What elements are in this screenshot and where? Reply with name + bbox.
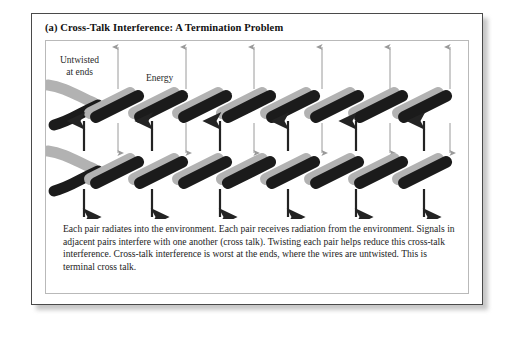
wire-pair-lower <box>48 151 446 191</box>
figure-frame: (a) Cross-Talk Interference: A Terminati… <box>31 13 483 305</box>
label-untwisted-line1: Untwisted <box>60 55 99 67</box>
wire-pair-upper <box>48 85 446 125</box>
arrow-row-bottom <box>84 189 424 217</box>
label-untwisted-line2: at ends <box>60 67 99 79</box>
figure-inner-panel: Untwisted at ends Energy Each pair radia… <box>45 40 469 294</box>
figure-title: (a) Cross-Talk Interference: A Terminati… <box>45 22 283 33</box>
figure-caption: Each pair radiates into the environment.… <box>63 223 455 273</box>
upper-light-tail <box>48 85 94 103</box>
arrow-row-mid-down <box>118 123 450 153</box>
diagram-svg <box>46 41 469 219</box>
lower-light-tail <box>48 151 94 169</box>
label-untwisted-at-ends: Untwisted at ends <box>60 55 99 78</box>
label-energy: Energy <box>146 73 173 85</box>
crosstalk-diagram <box>46 41 469 219</box>
